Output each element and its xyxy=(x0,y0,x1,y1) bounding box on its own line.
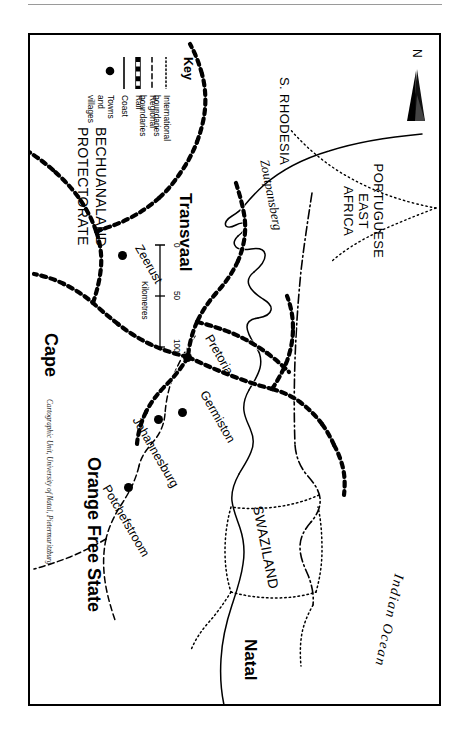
scale-unit-label: Kilometres xyxy=(140,281,149,320)
key-item-label: Coast xyxy=(120,95,130,117)
map-frame: N PORTUGUESE EAST AFRICA S. RHODESIA Zou… xyxy=(28,33,441,706)
solid-line-symbol xyxy=(119,57,129,89)
region-label-orange-free-state: Orange Free State xyxy=(85,457,103,612)
north-arrow: N xyxy=(403,49,429,119)
dotted-line-symbol xyxy=(161,57,171,89)
map-scale-bar: 0 50 100 Kilometres xyxy=(127,243,183,361)
map-key: Key International boundaries Regional bo… xyxy=(103,57,195,227)
filled-circle-symbol xyxy=(105,57,115,89)
page-top-rule xyxy=(28,4,442,5)
map-canvas: N PORTUGUESE EAST AFRICA S. RHODESIA Zou… xyxy=(28,33,441,706)
page-header-ghost-text: · · · · · xyxy=(80,0,330,3)
scale-tick-0: 0 xyxy=(172,243,181,248)
region-label-portuguese-east-africa: PORTUGUESE EAST AFRICA xyxy=(342,151,385,271)
rail-line-symbol xyxy=(133,57,143,89)
region-label-cape: Cape xyxy=(42,333,60,377)
north-arrow-label: N xyxy=(410,49,424,58)
key-item-label: Rail xyxy=(134,95,144,109)
dashed-line-symbol xyxy=(147,57,157,89)
scale-tick-50: 50 xyxy=(172,291,181,300)
map-key-title: Key xyxy=(181,57,195,80)
scale-tick-100: 100 xyxy=(172,339,181,353)
region-label-s-rhodesia: S. RHODESIA xyxy=(278,77,291,165)
north-arrow-icon xyxy=(403,65,429,121)
map-credit: Cartographic Unit, University of Natal, … xyxy=(45,399,53,564)
region-label-natal: Natal xyxy=(242,639,259,681)
key-item-label: Towns and villages xyxy=(86,95,116,123)
